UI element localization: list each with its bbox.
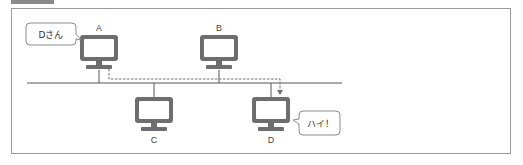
label-d: D: [268, 135, 275, 145]
svg-text:ハイ！: ハイ！: [307, 119, 334, 129]
arrow-down-icon: [277, 90, 283, 95]
computer-a: [80, 35, 118, 69]
computer-d: [252, 97, 290, 131]
computer-b: [200, 35, 238, 69]
network-diagram: A B C D Dさん ハイ！: [0, 0, 523, 165]
computer-c: [135, 97, 173, 131]
label-a: A: [96, 23, 102, 33]
label-b: B: [216, 23, 222, 33]
label-c: C: [151, 135, 158, 145]
speech-bubble-d: ハイ！: [293, 111, 340, 135]
svg-text:Dさん: Dさん: [39, 30, 64, 40]
speech-bubble-a: Dさん: [26, 23, 81, 45]
message-path: [109, 69, 283, 95]
